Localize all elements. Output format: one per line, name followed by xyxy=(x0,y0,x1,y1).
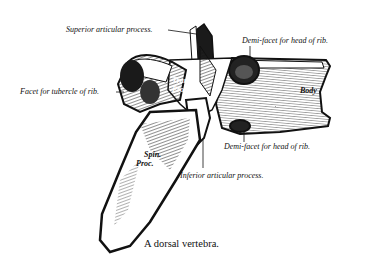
label-trans-proc-1: Trans. xyxy=(172,76,193,85)
label-trans-proc-2: Proc. xyxy=(172,85,190,94)
label-inferior-articular-process: Inferior articular process. xyxy=(180,171,263,180)
label-spin-proc-2: Proc. xyxy=(136,159,154,168)
vertebra-illustration: Superior articular process. Demi-facet f… xyxy=(0,0,366,269)
figure-caption: A dorsal vertebra. xyxy=(144,238,219,249)
label-demi-facet-lower: Demi-facet for head of rib. xyxy=(224,142,310,151)
label-superior-articular-process: Superior articular process. xyxy=(66,25,153,34)
label-spin-proc-1: Spin. xyxy=(144,150,161,159)
label-demi-facet-upper: Demi-facet for head of rib. xyxy=(242,36,328,45)
label-facet-tubercle-of-rib: Facet for tubercle of rib. xyxy=(20,87,99,96)
label-body: Body xyxy=(300,86,317,95)
